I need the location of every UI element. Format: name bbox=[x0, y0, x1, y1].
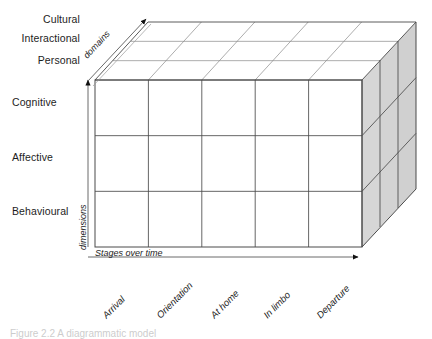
dimension-label-behavioural: Behavioural bbox=[12, 205, 69, 217]
top-face-group bbox=[95, 22, 416, 80]
dimension-label-cognitive: Cognitive bbox=[12, 96, 57, 108]
domain-label-interactional: Interactional bbox=[21, 32, 80, 44]
domain-label-cultural: Cultural bbox=[43, 13, 80, 25]
dimensions-axis-label: dimensions bbox=[78, 204, 88, 250]
domain-label-personal: Personal bbox=[38, 54, 80, 66]
front-face-group bbox=[95, 80, 362, 247]
stages-axis-label: Stages over time bbox=[95, 248, 163, 258]
dimension-label-affective: Affective bbox=[12, 151, 53, 163]
figure-caption: Figure 2.2 A diagrammatic model bbox=[10, 328, 156, 339]
